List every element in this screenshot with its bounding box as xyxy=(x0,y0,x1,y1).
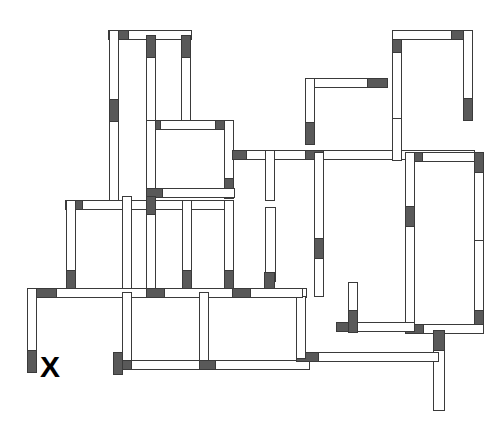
wall-body xyxy=(406,153,415,215)
wall-cap xyxy=(147,197,156,215)
wall-cap xyxy=(147,36,156,58)
wall-segment xyxy=(406,207,415,333)
wall-segment xyxy=(266,151,275,201)
wall-segment xyxy=(225,201,234,293)
wall-segment xyxy=(266,208,276,282)
wall-body xyxy=(200,293,209,369)
wall-segment xyxy=(110,100,119,205)
wall-segment xyxy=(200,361,310,370)
wall-segment xyxy=(306,79,388,88)
wall-segment xyxy=(110,31,119,106)
wall-segment xyxy=(393,31,402,121)
wall-segment xyxy=(147,36,156,124)
wall-body xyxy=(123,293,132,369)
wall-segment xyxy=(406,153,484,162)
wall-cap xyxy=(37,289,57,298)
wall-segment xyxy=(147,121,234,130)
wall-cap xyxy=(200,361,216,370)
wall-segment xyxy=(297,297,306,359)
walls-layer xyxy=(28,31,484,411)
wall-segment xyxy=(114,353,123,375)
wall-segment xyxy=(349,283,358,333)
wall-segment xyxy=(393,119,402,161)
wall-body xyxy=(266,151,275,201)
wall-cap xyxy=(28,351,37,373)
wall-body xyxy=(297,297,306,359)
wall-cap xyxy=(368,79,388,88)
wall-segment xyxy=(233,289,303,298)
wall-body xyxy=(110,31,119,106)
wall-cap xyxy=(349,311,358,333)
wall-segment xyxy=(147,189,235,198)
wall-segment xyxy=(393,31,473,40)
wall-segment xyxy=(475,153,484,245)
wall-cap xyxy=(114,353,123,375)
wall-segment xyxy=(183,201,192,293)
floor-plan-canvas: X xyxy=(0,0,504,434)
wall-segment xyxy=(297,353,439,362)
wall-cap xyxy=(315,239,324,259)
wall-cap xyxy=(233,151,247,160)
wall-segment xyxy=(182,36,191,122)
wall-cap xyxy=(110,100,119,122)
wall-cap xyxy=(182,36,191,58)
wall-body xyxy=(266,208,276,282)
wall-body xyxy=(147,121,156,197)
marker-x-label: X xyxy=(40,352,60,382)
wall-segment xyxy=(67,201,76,293)
wall-segment xyxy=(434,331,445,411)
wall-segment xyxy=(464,31,473,121)
floor-plan-svg xyxy=(0,0,504,434)
wall-segment xyxy=(406,153,415,215)
wall-body xyxy=(123,197,132,293)
wall-segment xyxy=(306,79,315,145)
wall-cap xyxy=(434,331,445,351)
wall-cap xyxy=(306,123,315,145)
wall-segment xyxy=(315,239,324,297)
wall-cap xyxy=(147,289,165,298)
wall-segment xyxy=(200,293,209,369)
wall-segment xyxy=(123,293,132,369)
wall-segment xyxy=(147,197,156,293)
wall-segment xyxy=(475,241,484,333)
wall-segment xyxy=(123,197,132,293)
wall-segment xyxy=(147,121,156,197)
wall-cap xyxy=(233,289,251,298)
wall-body xyxy=(393,119,402,161)
wall-segment xyxy=(28,289,37,373)
wall-cap xyxy=(464,99,473,121)
wall-cap xyxy=(475,153,484,173)
wall-cap xyxy=(406,207,415,227)
